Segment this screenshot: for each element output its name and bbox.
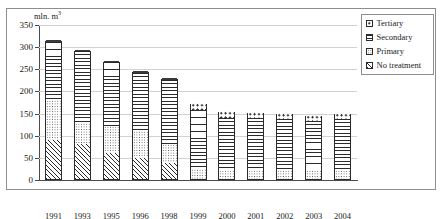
- bar-segment: [133, 131, 148, 158]
- legend-item-label: Tertiary: [377, 19, 404, 28]
- y-axis-tick: [35, 114, 39, 115]
- bar-segment: [104, 62, 119, 126]
- bar-segment: [46, 100, 61, 140]
- bar-segment: [277, 119, 292, 170]
- bar-segment: [191, 103, 206, 110]
- bar[interactable]: [334, 114, 351, 180]
- plot-area: 0501001502002503003501991199319951996199…: [39, 25, 357, 180]
- y-axis-unit-exponent: 3: [58, 10, 61, 16]
- bar[interactable]: [45, 41, 62, 181]
- y-axis-tick: [35, 180, 39, 181]
- bar-segment: [46, 40, 61, 42]
- bar[interactable]: [276, 114, 293, 180]
- bar-segment: [248, 118, 263, 170]
- bar-segment: [46, 140, 61, 179]
- bar-segment: [306, 170, 321, 179]
- legend-item[interactable]: Primary: [366, 47, 430, 56]
- legend-swatch-primary-icon: [366, 48, 373, 55]
- bar-segment: [75, 144, 90, 179]
- legend-swatch-tertiary-icon: [366, 20, 373, 27]
- bar-segment: [219, 170, 234, 179]
- gridline: [39, 47, 357, 48]
- legend-item-label: Secondary: [377, 33, 413, 42]
- bar[interactable]: [190, 104, 207, 180]
- bar-segment: [104, 153, 119, 179]
- bar-segment: [219, 118, 234, 170]
- bar[interactable]: [305, 116, 322, 180]
- bar-segment: [162, 78, 177, 81]
- gridline: [39, 25, 357, 26]
- legend-swatch-notreatment-icon: [366, 62, 373, 69]
- y-axis-tick-label: 100: [20, 131, 34, 140]
- bar-segment: [191, 110, 206, 169]
- bar-segment: [277, 170, 292, 179]
- legend-item[interactable]: No treatment: [366, 61, 430, 70]
- y-axis-tick: [35, 158, 39, 159]
- y-axis-unit-text: mln. m: [34, 11, 58, 21]
- chart-title-strip: [0, 0, 443, 7]
- bar-segment: [248, 170, 263, 179]
- bar-segment: [104, 126, 119, 153]
- bar-segment: [191, 169, 206, 179]
- legend-item[interactable]: Tertiary: [366, 19, 430, 28]
- bar-segment: [162, 80, 177, 144]
- legend-item-label: No treatment: [377, 61, 422, 70]
- x-axis-line: [39, 180, 358, 181]
- stacked-bar-chart: mln. m3 05010015020025030035019911993199…: [0, 0, 443, 219]
- y-axis-tick-label: 150: [20, 109, 34, 118]
- bar-segment: [162, 144, 177, 163]
- y-axis-tick: [35, 25, 39, 26]
- y-axis-tick: [35, 47, 39, 48]
- bar-segment: [248, 112, 263, 118]
- bar[interactable]: [132, 72, 149, 180]
- y-axis-tick-label: 250: [20, 65, 34, 74]
- y-axis-unit-label: mln. m3: [34, 10, 61, 21]
- bar-segment: [75, 50, 90, 51]
- chart-legend: TertiarySecondaryPrimaryNo treatment: [361, 14, 434, 75]
- legend-swatch-secondary-icon: [366, 34, 373, 41]
- bar-segment: [306, 115, 321, 121]
- bar-segment: [306, 121, 321, 170]
- bar-segment: [133, 73, 148, 131]
- bar[interactable]: [103, 62, 120, 180]
- y-axis-tick: [35, 91, 39, 92]
- bar[interactable]: [74, 51, 91, 180]
- y-axis-tick-label: 0: [29, 176, 34, 185]
- bar-segment: [335, 119, 350, 170]
- y-axis-tick-label: 200: [20, 87, 34, 96]
- bar-segment: [104, 61, 119, 62]
- bar-segment: [335, 113, 350, 120]
- bar-segment: [133, 158, 148, 179]
- bar-segment: [75, 123, 90, 144]
- bar[interactable]: [161, 79, 178, 180]
- bar[interactable]: [218, 112, 235, 180]
- legend-item-label: Primary: [377, 47, 404, 56]
- bar[interactable]: [247, 113, 264, 180]
- bar-segment: [133, 71, 148, 73]
- y-axis-tick-label: 300: [20, 43, 34, 52]
- bar-segment: [219, 111, 234, 118]
- y-axis-tick-label: 350: [20, 21, 34, 30]
- bar-segment: [162, 163, 177, 179]
- bar-segment: [277, 113, 292, 119]
- y-axis-tick: [35, 136, 39, 137]
- x-axis-tick-label: 2004: [323, 211, 363, 219]
- y-axis-tick: [35, 69, 39, 70]
- legend-item[interactable]: Secondary: [366, 33, 430, 42]
- bar-segment: [46, 42, 61, 100]
- bar-segment: [75, 51, 90, 123]
- bar-segment: [335, 170, 350, 179]
- y-axis-tick-label: 50: [24, 153, 33, 162]
